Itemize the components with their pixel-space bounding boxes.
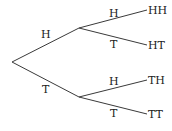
outcome-tt: TT <box>148 108 164 121</box>
edge-label-hh: H <box>109 7 119 20</box>
outcome-ht: HT <box>148 39 166 52</box>
outcome-th: TH <box>148 74 165 87</box>
probability-tree: H T H T H T HH HT TH TT <box>0 0 172 131</box>
edge-label-first-t: T <box>42 83 50 96</box>
edge-label-ht: T <box>110 38 118 51</box>
edge-label-first-h: H <box>41 28 51 41</box>
edge-label-th: H <box>109 75 119 88</box>
edge-label-tt: T <box>110 107 118 120</box>
outcome-hh: HH <box>148 4 167 17</box>
